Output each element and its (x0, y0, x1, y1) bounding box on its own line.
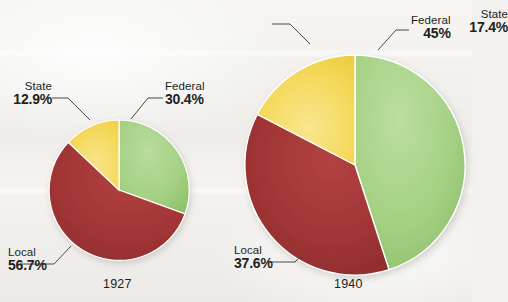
label-local-1927-value: 56.7% (8, 258, 47, 273)
label-federal-1927-value: 30.4% (165, 92, 205, 107)
label-state-1927: State 12.9% (0, 80, 52, 108)
label-local-1927: Local 56.7% (8, 246, 47, 274)
label-federal-1927: Federal 30.4% (165, 80, 205, 108)
year-label-1927: 1927 (103, 277, 132, 291)
label-local-1940: Local 37.6% (234, 244, 273, 272)
label-state-1927-value: 12.9% (0, 92, 52, 107)
leader-federal-1927 (131, 98, 163, 119)
leader-state-1927 (52, 98, 90, 120)
pie-chart-1940: State 17.4% Federal 45% Local 37.6% 1940 (236, 0, 472, 302)
label-federal-1940-value: 45% (411, 26, 451, 41)
year-label-1940: 1940 (334, 277, 363, 291)
leader-federal-1940 (378, 30, 409, 50)
pie-1927-slices (49, 120, 189, 260)
leader-state-1940 (272, 24, 310, 44)
label-federal-1940: Federal 45% (411, 14, 451, 42)
label-local-1940-value: 37.6% (234, 256, 273, 271)
pie-1940-slices (245, 55, 465, 275)
pie-chart-1927: State 12.9% Federal 30.4% Local 56.7% 19… (0, 0, 236, 302)
